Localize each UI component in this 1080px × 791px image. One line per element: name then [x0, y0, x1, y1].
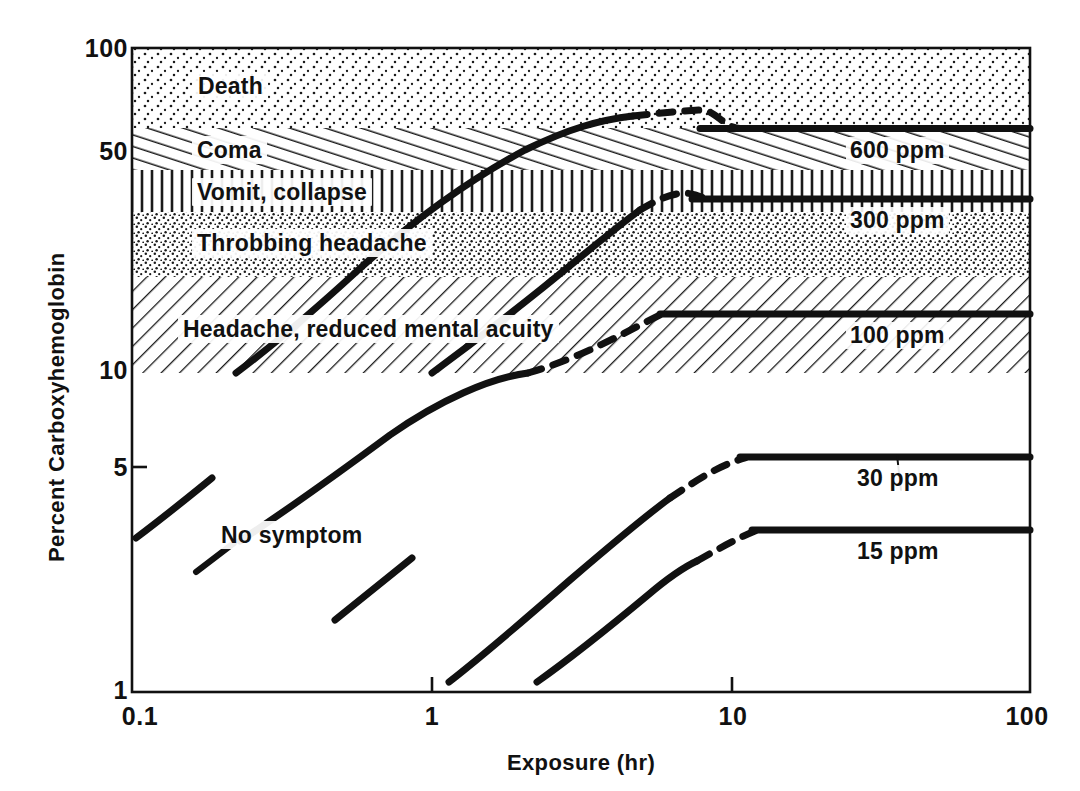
curve-30-ppm — [449, 457, 1030, 682]
ytick-label-1: 1 — [114, 676, 128, 705]
region-label-death: Death — [193, 72, 268, 100]
curve-300-ppm-lower-stub — [335, 558, 412, 620]
figure-canvas: 100 50 10 5 1 0.1 1 10 100 Exposure (hr)… — [0, 0, 1080, 791]
curve-15-ppm — [537, 530, 1030, 682]
ytick-label-50: 50 — [99, 137, 128, 166]
ytick-label-5: 5 — [114, 453, 128, 482]
chart-plot-area — [0, 0, 1080, 791]
curve-100-ppm-solid — [240, 373, 528, 541]
curve-label-15-ppm: 15 ppm — [853, 538, 943, 565]
curve-30-ppm-solid — [449, 498, 670, 682]
curve-15-ppm-dashed — [697, 531, 755, 561]
xtick-label-10: 10 — [719, 702, 748, 731]
ytick-label-10: 10 — [99, 356, 128, 385]
curve-600-ppm-lower-stub — [136, 478, 212, 538]
region-label-headache-acuity: Headache, reduced mental acuity — [178, 315, 559, 343]
curve-15-ppm-solid — [537, 561, 697, 682]
xtick-label-100: 100 — [1005, 702, 1048, 731]
ytick-label-100: 100 — [85, 34, 128, 63]
curve-label-30-ppm: 30 ppm — [853, 465, 943, 492]
annotation-no-symptom: No symptom — [216, 521, 367, 549]
xtick-label-1: 1 — [425, 702, 439, 731]
y-axis-title: Percent Carboxyhemoglobin — [44, 252, 70, 562]
region-label-coma: Coma — [192, 136, 267, 164]
curve-30-ppm-dashed — [670, 458, 745, 498]
region-label-vomit-collapse: Vomit, collapse — [192, 178, 372, 206]
curve-label-100-ppm: 100 ppm — [846, 322, 949, 349]
xtick-label-0.1: 0.1 — [122, 702, 158, 731]
curve-label-300-ppm: 300 ppm — [846, 207, 949, 234]
region-label-throbbing-headache: Throbbing headache — [192, 229, 432, 257]
x-axis-title: Exposure (hr) — [507, 750, 655, 776]
curve-label-600-ppm: 600 ppm — [846, 137, 949, 164]
axis-ticks — [132, 467, 732, 692]
